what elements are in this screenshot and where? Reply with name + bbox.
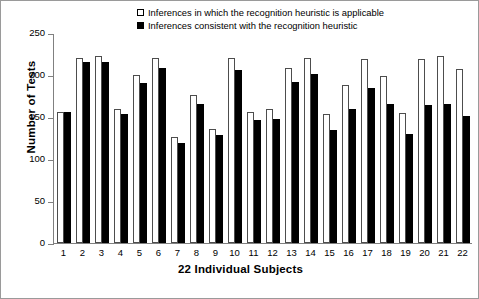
y-tick-0: 0 — [48, 244, 53, 245]
y-tick-100: 100 — [48, 160, 53, 161]
bar-applicable — [342, 85, 349, 243]
bar-consistent — [83, 62, 90, 243]
bar-applicable — [361, 59, 368, 243]
y-tick-label: 100 — [29, 153, 45, 164]
bar-group — [263, 33, 282, 243]
y-axis-title: Number of Tests — [25, 22, 37, 192]
bar-group — [358, 33, 377, 243]
x-axis-line — [53, 243, 472, 244]
x-tick-label: 14 — [301, 247, 320, 258]
y-tick-250: 250 — [48, 34, 53, 35]
x-tick-label: 2 — [73, 247, 92, 258]
bar-group — [301, 33, 320, 243]
bar-applicable — [190, 95, 197, 243]
x-axis-tick-labels: 12345678910111213141516171819202122 — [54, 247, 472, 258]
x-tick-label: 8 — [187, 247, 206, 258]
x-tick-label: 7 — [168, 247, 187, 258]
bar-group — [339, 33, 358, 243]
bar-consistent — [425, 105, 432, 243]
bar-applicable — [437, 56, 444, 243]
bar-groups — [54, 33, 472, 243]
bar-consistent — [140, 83, 147, 243]
y-tick-200: 200 — [48, 76, 53, 77]
x-tick-label: 12 — [263, 247, 282, 258]
bar-consistent — [292, 82, 299, 243]
y-tick-label: 200 — [29, 69, 45, 80]
bar-applicable — [285, 68, 292, 243]
bar-applicable — [152, 58, 159, 243]
bar-applicable — [304, 58, 311, 243]
bar-consistent — [330, 130, 337, 243]
bar-applicable — [380, 76, 387, 243]
legend-item-consistent: Inferences consistent with the recogniti… — [137, 19, 467, 32]
bar-applicable — [95, 56, 102, 243]
bar-applicable — [209, 129, 216, 243]
bar-consistent — [444, 104, 451, 243]
bar-applicable — [266, 109, 273, 243]
bar-applicable — [456, 69, 463, 243]
bar-group — [453, 33, 472, 243]
bar-group — [377, 33, 396, 243]
x-tick-label: 1 — [54, 247, 73, 258]
legend-label-consistent: Inferences consistent with the recogniti… — [148, 20, 358, 31]
bar-applicable — [133, 75, 140, 243]
bar-applicable — [323, 114, 330, 243]
bar-consistent — [159, 68, 166, 243]
x-tick-label: 10 — [225, 247, 244, 258]
bar-group — [92, 33, 111, 243]
bar-group — [225, 33, 244, 243]
bar-consistent — [311, 74, 318, 243]
x-tick-label: 3 — [92, 247, 111, 258]
bar-applicable — [114, 109, 121, 243]
legend-swatch-open-icon — [137, 9, 144, 16]
y-tick-label: 50 — [34, 195, 45, 206]
x-tick-label: 19 — [396, 247, 415, 258]
bar-applicable — [399, 113, 406, 243]
bar-consistent — [216, 135, 223, 243]
x-tick-label: 11 — [244, 247, 263, 258]
bar-group — [73, 33, 92, 243]
x-tick-label: 5 — [130, 247, 149, 258]
x-tick-label: 20 — [415, 247, 434, 258]
chart-legend: Inferences in which the recognition heur… — [137, 6, 467, 32]
bar-consistent — [368, 88, 375, 243]
bar-consistent — [406, 134, 413, 243]
legend-item-applicable: Inferences in which the recognition heur… — [137, 6, 467, 19]
y-tick-50: 50 — [48, 202, 53, 203]
bar-group — [168, 33, 187, 243]
bar-applicable — [171, 137, 178, 243]
bar-consistent — [121, 114, 128, 243]
bar-consistent — [387, 104, 394, 243]
bar-applicable — [57, 112, 64, 243]
bar-group — [187, 33, 206, 243]
bar-consistent — [102, 62, 109, 243]
x-tick-label: 16 — [339, 247, 358, 258]
plot-area: 050100150200250 — [53, 34, 472, 244]
x-tick-label: 18 — [377, 247, 396, 258]
bar-group — [320, 33, 339, 243]
x-tick-label: 13 — [282, 247, 301, 258]
y-tick-label: 0 — [40, 237, 45, 248]
bar-group — [415, 33, 434, 243]
bar-consistent — [463, 116, 470, 243]
bar-chart-figure: Inferences in which the recognition heur… — [0, 0, 479, 299]
legend-swatch-filled-icon — [137, 22, 144, 29]
x-tick-label: 17 — [358, 247, 377, 258]
bar-applicable — [247, 112, 254, 243]
bar-group — [434, 33, 453, 243]
bar-consistent — [254, 120, 261, 243]
x-tick-label: 15 — [320, 247, 339, 258]
bar-applicable — [418, 59, 425, 243]
bar-applicable — [228, 58, 235, 243]
bar-group — [282, 33, 301, 243]
bar-consistent — [235, 70, 242, 243]
y-tick-label: 250 — [29, 27, 45, 38]
bar-consistent — [64, 112, 71, 243]
bar-group — [244, 33, 263, 243]
bar-group — [206, 33, 225, 243]
x-tick-label: 6 — [149, 247, 168, 258]
bar-applicable — [76, 58, 83, 243]
y-tick-150: 150 — [48, 118, 53, 119]
bar-group — [54, 33, 73, 243]
x-tick-label: 9 — [206, 247, 225, 258]
